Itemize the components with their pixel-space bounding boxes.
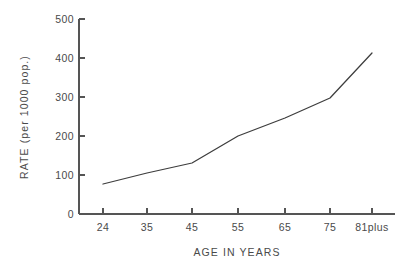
y-tick-label-300: 300 xyxy=(55,91,74,103)
y-tick-label-200: 200 xyxy=(55,130,74,142)
x-tick-label-81plus: 81plus xyxy=(355,221,388,233)
x-tick-label-45: 45 xyxy=(186,221,198,233)
y-tick-label-500: 500 xyxy=(55,13,74,25)
y-axis-title: RATE (per 1000 pop.) xyxy=(18,55,30,179)
chart-container: 500 400 300 200 100 0 24 35 45 55 65 75 … xyxy=(0,0,409,267)
x-tick-label-75: 75 xyxy=(324,221,336,233)
x-tick-label-65: 65 xyxy=(279,221,291,233)
line-chart: 500 400 300 200 100 0 24 35 45 55 65 75 … xyxy=(0,0,409,267)
x-tick-label-55: 55 xyxy=(232,221,244,233)
y-tick-label-400: 400 xyxy=(55,52,74,64)
y-tick-label-100: 100 xyxy=(55,169,74,181)
x-axis-title: AGE IN YEARS xyxy=(193,246,280,258)
x-tick-label-24: 24 xyxy=(97,221,109,233)
x-tick-label-35: 35 xyxy=(141,221,153,233)
y-tick-label-0: 0 xyxy=(68,208,74,220)
